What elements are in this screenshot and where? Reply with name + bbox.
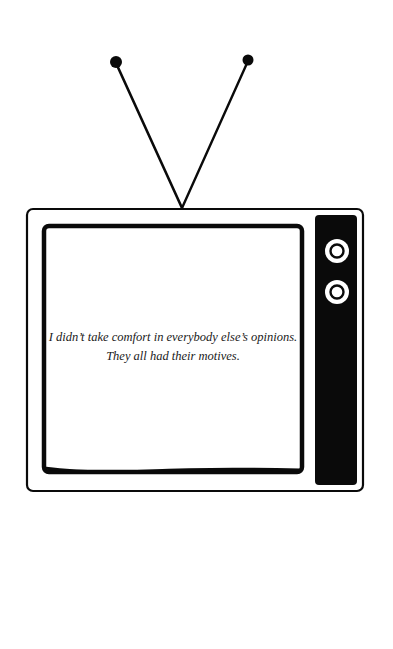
antenna-icon: [110, 55, 254, 209]
screen-quote: I didn’t take comfort in everybody else’…: [46, 328, 300, 366]
quote-line-1: I didn’t take comfort in everybody else’…: [46, 328, 300, 347]
knob-top-icon[interactable]: [325, 239, 349, 263]
tv-illustration: [0, 0, 393, 649]
knob-bottom-icon[interactable]: [325, 280, 349, 304]
quote-line-2: They all had their motives.: [46, 347, 300, 366]
